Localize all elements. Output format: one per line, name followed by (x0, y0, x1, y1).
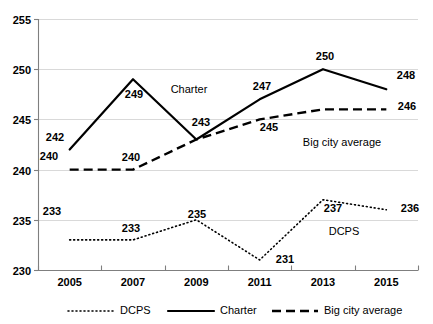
data-label-dcps-2009: 235 (188, 208, 206, 220)
series-annotation-big-city-average: Big city average (303, 136, 381, 148)
data-label-charter-2015: 248 (397, 69, 415, 81)
legend-label-dcps[interactable]: DCPS (120, 304, 151, 316)
x-tick-label-2009: 2009 (184, 276, 208, 288)
x-tick-label-2007: 2007 (121, 276, 145, 288)
x-tick-label-2005: 2005 (57, 276, 81, 288)
chart-page: 230235240245250255 200520072009201120132… (0, 0, 433, 324)
x-tick-label-2011: 2011 (248, 276, 272, 288)
data-label-dcps-2013: 237 (324, 202, 342, 214)
series-annotation-dcps: DCPS (329, 225, 360, 237)
data-label-dcps-2005: 233 (43, 205, 61, 217)
data-label-dcps-2011: 231 (276, 253, 294, 265)
y-tick-label-245: 245 (13, 114, 31, 126)
data-label-charter-2009: 243 (192, 116, 210, 128)
legend-label-big-city-average[interactable]: Big city average (324, 304, 402, 316)
line-chart: 230235240245250255 200520072009201120132… (0, 0, 433, 324)
data-label-charter-2005: 242 (46, 131, 64, 143)
data-label-dcps-2015: 236 (401, 202, 419, 214)
data-label-charter-2007: 249 (125, 88, 143, 100)
y-tick-label-255: 255 (13, 14, 31, 26)
y-tick-label-250: 250 (13, 64, 31, 76)
legend-label-charter[interactable]: Charter (220, 304, 257, 316)
data-label-dcps-2007: 233 (122, 222, 140, 234)
data-label-charter-2011: 247 (253, 80, 271, 92)
data-label-big-city-average-2007: 240 (122, 151, 140, 163)
data-label-big-city-average-2011: 245 (260, 121, 278, 133)
series-annotation-charter: Charter (171, 83, 208, 95)
data-label-charter-2013: 250 (316, 50, 334, 62)
y-tick-label-235: 235 (13, 215, 31, 227)
x-tick-label-2013: 2013 (311, 276, 335, 288)
y-tick-label-230: 230 (13, 265, 31, 277)
y-tick-label-240: 240 (13, 165, 31, 177)
x-tick-label-2015: 2015 (374, 276, 398, 288)
data-label-charter-2005: 240 (40, 150, 58, 162)
data-label-big-city-average-2015: 246 (398, 100, 416, 112)
